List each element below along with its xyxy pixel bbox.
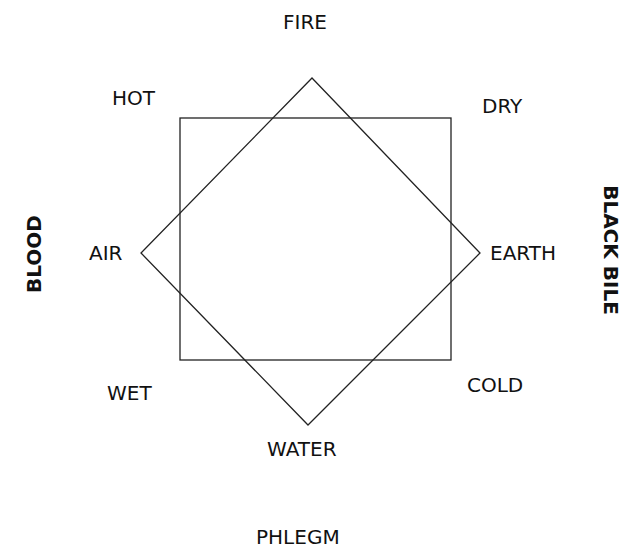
- label-phlegm: PHLEGM: [256, 527, 340, 547]
- label-water: WATER: [267, 439, 337, 459]
- label-fire: FIRE: [283, 12, 327, 32]
- label-earth: EARTH: [490, 243, 556, 263]
- diagram-shapes: [0, 0, 637, 555]
- label-blood: BLOOD: [24, 215, 44, 293]
- label-dry: DRY: [482, 96, 522, 116]
- qualities-square: [180, 118, 451, 360]
- label-cold: COLD: [467, 375, 523, 395]
- label-hot: HOT: [112, 88, 155, 108]
- label-black-bile: BLACK BILE: [601, 185, 621, 315]
- label-wet: WET: [107, 383, 152, 403]
- elements-diamond: [141, 78, 480, 425]
- label-air: AIR: [89, 243, 122, 263]
